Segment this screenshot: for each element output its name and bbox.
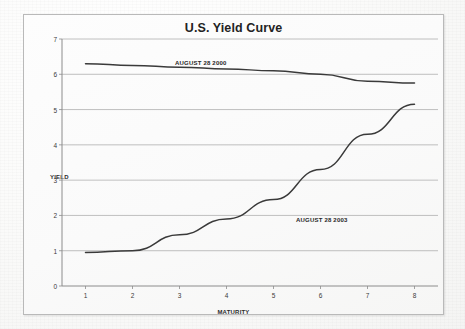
chart-frame: U.S. Yield Curve YIELD MATURITY AUGUST 2… xyxy=(23,14,444,315)
x-tick-label: 6 xyxy=(319,292,323,299)
y-tick-label: 5 xyxy=(53,106,57,113)
x-tick-label: 2 xyxy=(131,292,135,299)
gridlines xyxy=(62,39,438,251)
x-tick-label: 5 xyxy=(272,292,276,299)
x-axis-title: MATURITY xyxy=(24,309,443,315)
plot-area: 01234567 12345678 xyxy=(62,39,438,286)
y-tick-label: 1 xyxy=(53,247,57,254)
series-line-1 xyxy=(86,64,415,83)
chart-title: U.S. Yield Curve xyxy=(24,21,443,35)
y-tick-label: 7 xyxy=(53,36,57,43)
plot-svg xyxy=(62,39,438,286)
x-tick-label: 7 xyxy=(366,292,370,299)
y-tick-label: 4 xyxy=(53,141,57,148)
x-tick-label: 3 xyxy=(178,292,182,299)
x-tick-label: 8 xyxy=(413,292,417,299)
y-tick-label: 3 xyxy=(53,177,57,184)
y-tick-label: 2 xyxy=(53,212,57,219)
series-lines xyxy=(86,64,415,253)
x-tick-label: 1 xyxy=(84,292,88,299)
y-tick-label: 6 xyxy=(53,71,57,78)
y-tick-label: 0 xyxy=(53,283,57,290)
series-line-2 xyxy=(86,104,415,252)
x-tick-label: 4 xyxy=(225,292,229,299)
